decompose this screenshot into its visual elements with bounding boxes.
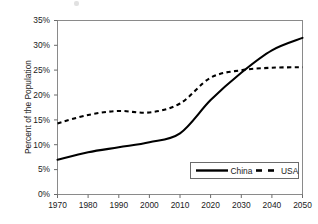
- series-line-china: [58, 38, 303, 160]
- legend-label-china: China: [231, 166, 253, 176]
- x-tick-label: 1990: [109, 200, 128, 210]
- chart-legend: China USA: [191, 163, 299, 179]
- legend-label-usa: USA: [281, 166, 299, 176]
- x-tick-label: 2040: [263, 200, 282, 210]
- x-tick-label: 1970: [48, 200, 67, 210]
- y-tick-label: 10%: [33, 140, 50, 150]
- y-tick-label: 30%: [33, 40, 50, 50]
- y-tick-label: 20%: [33, 90, 50, 100]
- line-chart: 0% 5% 10% 15% 20% 25% 30% 35% 1970 1980 …: [0, 0, 318, 224]
- chart-container: 0% 5% 10% 15% 20% 25% 30% 35% 1970 1980 …: [0, 0, 318, 224]
- x-tick-label: 2010: [171, 200, 190, 210]
- x-tick-label: 2000: [140, 200, 159, 210]
- y-tick-label: 35%: [33, 15, 50, 25]
- x-tick-label: 2030: [232, 200, 251, 210]
- y-tick-labels: 0% 5% 10% 15% 20% 25% 30% 35%: [33, 15, 50, 199]
- y-tick-label: 25%: [33, 65, 50, 75]
- x-axis-ticks: [58, 195, 303, 199]
- y-tick-label: 0%: [38, 189, 51, 199]
- y-axis-ticks: [54, 21, 58, 195]
- series-line-usa: [58, 67, 303, 123]
- x-tick-labels: 1970 1980 1990 2000 2010 2020 2030 2040 …: [48, 200, 312, 210]
- x-tick-label: 1980: [79, 200, 98, 210]
- y-tick-label: 15%: [33, 115, 50, 125]
- x-tick-label: 2020: [201, 200, 220, 210]
- y-axis-title: Percent of the Population: [23, 60, 33, 154]
- x-tick-label: 2050: [293, 200, 312, 210]
- y-tick-label: 5%: [38, 164, 51, 174]
